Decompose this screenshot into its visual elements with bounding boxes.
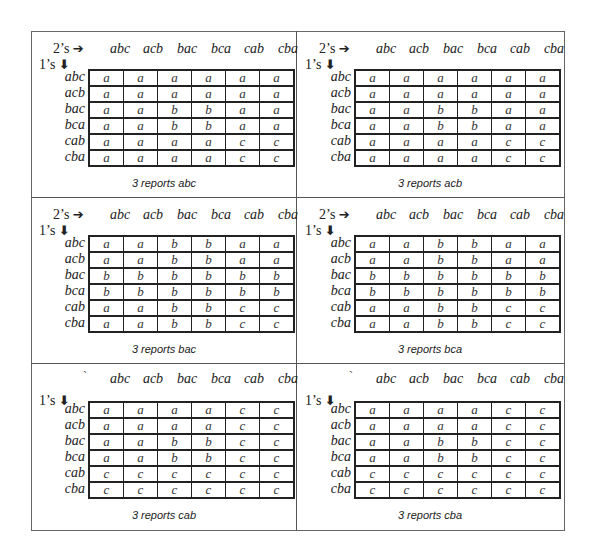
column-header: bca: [204, 207, 238, 223]
column-header: abc: [369, 207, 403, 223]
table-cell: a: [260, 236, 295, 252]
table-cell: b: [158, 236, 192, 252]
row-header: abc: [49, 401, 85, 417]
table-cell: a: [355, 150, 390, 166]
table-cell: a: [226, 252, 260, 268]
table-cell: c: [260, 134, 295, 150]
table-cell: b: [492, 284, 526, 300]
table-cell: c: [226, 150, 260, 166]
table-cell: a: [158, 70, 192, 86]
table-cell: c: [192, 466, 226, 482]
table-cell: a: [226, 102, 260, 118]
table-cell: c: [492, 300, 526, 316]
table-cell: a: [492, 102, 526, 118]
table-cell: a: [124, 86, 158, 102]
column-header: bca: [204, 371, 238, 387]
table-cell: c: [260, 466, 295, 482]
table-cell: b: [158, 300, 192, 316]
table-cell: b: [158, 450, 192, 466]
table-cell: b: [192, 284, 226, 300]
table-cell: a: [89, 118, 124, 134]
table-cell: c: [158, 482, 192, 498]
column-header: bca: [470, 41, 504, 57]
table-cell: a: [124, 150, 158, 166]
table-cell: b: [355, 284, 390, 300]
row-header: acb: [49, 417, 85, 433]
table-row: aaaaaa: [89, 70, 294, 86]
column-header: bac: [436, 207, 470, 223]
row-header: cab: [49, 133, 85, 149]
table-cell: a: [89, 236, 124, 252]
table-cell: a: [355, 450, 390, 466]
table-cell: c: [492, 434, 526, 450]
column-header: bac: [436, 371, 470, 387]
table-cell: b: [124, 268, 158, 284]
player2-text: 2’s: [53, 207, 69, 222]
table-cell: a: [89, 316, 124, 332]
table-cell: a: [390, 150, 424, 166]
table-cell: a: [124, 300, 158, 316]
table-cell: a: [89, 150, 124, 166]
table-cell: c: [492, 482, 526, 498]
payoff-panel: `1’s ⬇abcacbbacbcacabcbaabcacbbacbcacabc…: [297, 363, 563, 529]
row-header: cab: [315, 465, 351, 481]
row-header: bca: [315, 283, 351, 299]
table-row: aabbcc: [89, 300, 294, 316]
table-cell: b: [158, 434, 192, 450]
table-cell: c: [492, 418, 526, 434]
table-cell: c: [526, 150, 561, 166]
column-header: abc: [369, 41, 403, 57]
table-cell: c: [260, 316, 295, 332]
row-header: bac: [49, 101, 85, 117]
row-header: abc: [315, 69, 351, 85]
column-header: cba: [537, 207, 571, 223]
table-cell: a: [124, 118, 158, 134]
table-cell: c: [260, 450, 295, 466]
row-header: cba: [315, 149, 351, 165]
table-cell: a: [390, 236, 424, 252]
column-header: bac: [436, 41, 470, 57]
table-row: aabbcc: [355, 300, 560, 316]
table-cell: c: [492, 402, 526, 418]
row-header: cba: [315, 481, 351, 497]
column-header: cba: [537, 41, 571, 57]
column-header: cab: [237, 207, 271, 223]
table-cell: c: [355, 466, 390, 482]
table-cell: b: [424, 118, 458, 134]
table-cell: b: [424, 268, 458, 284]
panel-caption: 3 reports cab: [31, 509, 297, 521]
table-cell: a: [355, 402, 390, 418]
tick-mark: `: [83, 369, 87, 384]
table-cell: a: [192, 134, 226, 150]
table-cell: a: [124, 236, 158, 252]
table-cell: b: [424, 102, 458, 118]
table-row: aabbcc: [89, 434, 294, 450]
table-cell: a: [458, 150, 492, 166]
table-cell: a: [89, 134, 124, 150]
table-cell: b: [158, 316, 192, 332]
panel-caption: 3 reports abc: [31, 177, 297, 189]
table-row: aaaaaa: [89, 86, 294, 102]
table-cell: a: [192, 402, 226, 418]
player2-text: 2’s: [53, 41, 69, 56]
table-row: aabbaa: [355, 236, 560, 252]
panel-caption: 3 reports bac: [31, 343, 297, 355]
column-header: cab: [237, 371, 271, 387]
table-cell: b: [192, 316, 226, 332]
table-cell: b: [458, 268, 492, 284]
table-row: aaaacc: [89, 418, 294, 434]
table-cell: a: [226, 236, 260, 252]
table-cell: b: [458, 236, 492, 252]
table-cell: a: [355, 418, 390, 434]
table-cell: a: [526, 252, 561, 268]
table-row: aabbaa: [89, 252, 294, 268]
table-cell: a: [226, 86, 260, 102]
table-cell: b: [158, 284, 192, 300]
table-row: aabbcc: [355, 316, 560, 332]
table-cell: a: [124, 70, 158, 86]
table-cell: c: [526, 482, 561, 498]
table-row: aaaacc: [89, 402, 294, 418]
table-cell: c: [226, 316, 260, 332]
row-header: cba: [49, 315, 85, 331]
table-cell: c: [492, 134, 526, 150]
